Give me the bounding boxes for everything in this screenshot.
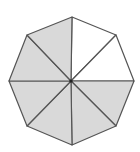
- center-point: [69, 79, 72, 82]
- octagon-diagram: [0, 0, 140, 152]
